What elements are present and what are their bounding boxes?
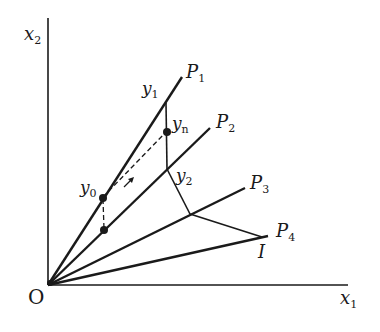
- origin-point: [47, 280, 53, 286]
- label-p2: P2: [215, 111, 235, 135]
- ray-p3: [48, 188, 245, 285]
- segment-junction-I: [190, 214, 262, 237]
- direction-arrow-icon: [124, 177, 134, 187]
- x1-axis-label: x1: [340, 287, 357, 311]
- ray-p4: [48, 236, 268, 285]
- label-p1: P1: [185, 61, 205, 85]
- x2-axis-label: x2: [24, 23, 41, 47]
- label-I: I: [257, 241, 266, 262]
- dashed-y0-yn: [103, 132, 166, 197]
- origin-label: O: [28, 285, 44, 309]
- label-y0: y0: [79, 177, 97, 200]
- segment-y1-y2: [166, 103, 167, 169]
- cone-projection-diagram: x2 x1 O P1 P2 P3 P4 y1 yn y2 y0 I: [0, 0, 380, 332]
- label-yn: yn: [171, 113, 189, 136]
- point-y0-projection: [100, 226, 108, 234]
- label-p3: P3: [249, 172, 269, 196]
- ray-p1: [48, 77, 182, 285]
- point-yn: [163, 128, 171, 136]
- point-y0: [99, 194, 107, 202]
- label-y1: y1: [141, 78, 159, 101]
- dashed-y0-lower: [103, 199, 104, 229]
- label-y2: y2: [175, 165, 193, 188]
- label-p4: P4: [275, 220, 295, 244]
